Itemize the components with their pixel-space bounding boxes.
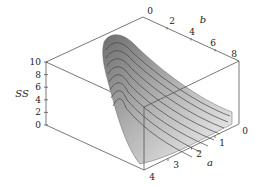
z-tick-8: 8 bbox=[35, 70, 41, 80]
b-axis-label: b bbox=[200, 14, 206, 25]
a-tick-4: 4 bbox=[149, 172, 155, 182]
b-tick-2: 2 bbox=[169, 16, 175, 26]
surface bbox=[103, 35, 232, 164]
z-tick-6: 6 bbox=[35, 82, 41, 92]
z-tick-2: 2 bbox=[35, 107, 41, 117]
surface-plot: 0 2 4 6 8 10 SS 0 2 4 6 8 b 4 3 2 1 0 a bbox=[0, 0, 260, 185]
b-tick-8: 8 bbox=[231, 49, 237, 59]
b-tick-6: 6 bbox=[210, 38, 216, 48]
z-tick-10: 10 bbox=[30, 57, 42, 67]
a-axis-label: a bbox=[207, 157, 213, 168]
a-tick-2: 2 bbox=[196, 149, 202, 159]
a-tick-1: 1 bbox=[219, 138, 225, 148]
z-tick-0: 0 bbox=[35, 120, 41, 130]
a-tick-3: 3 bbox=[173, 160, 179, 170]
z-axis-label: SS bbox=[15, 88, 29, 99]
b-tick-4: 4 bbox=[189, 27, 195, 37]
z-tick-4: 4 bbox=[35, 95, 41, 105]
a-tick-0: 0 bbox=[242, 126, 248, 136]
b-tick-0: 0 bbox=[147, 6, 153, 16]
